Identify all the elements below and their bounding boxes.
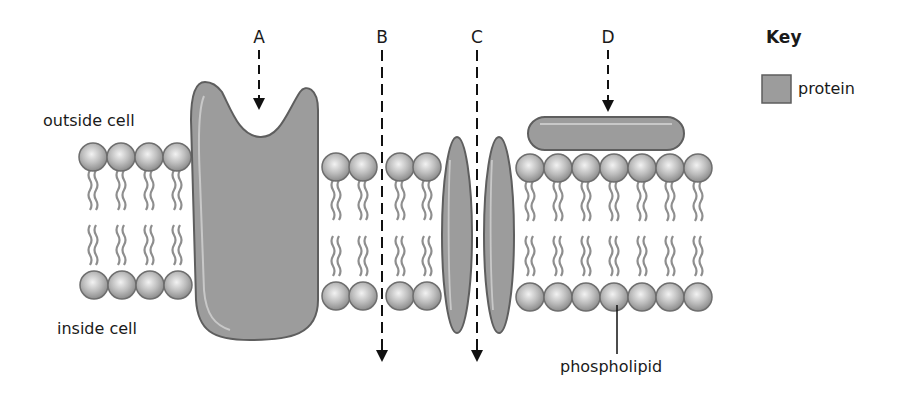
phospholipid-group-left xyxy=(79,143,192,299)
key-title: Key xyxy=(766,27,802,47)
phospholipid-label: phospholipid xyxy=(560,357,662,376)
protein-d xyxy=(528,117,684,150)
arrow-a xyxy=(253,50,265,110)
arrow-d xyxy=(602,50,614,112)
protein-channel-right xyxy=(484,137,514,333)
label-a: A xyxy=(253,27,265,47)
outside-cell-label: outside cell xyxy=(43,111,135,130)
label-b: B xyxy=(376,27,388,47)
protein-channel-left xyxy=(442,137,472,333)
label-d: D xyxy=(601,27,614,47)
protein-a xyxy=(191,82,318,340)
arrow-b xyxy=(376,50,388,362)
phospholipid-group-right xyxy=(516,154,712,311)
key-protein-swatch xyxy=(762,75,791,103)
arrow-c xyxy=(471,50,483,362)
membrane-diagram: A B C D outside cell inside cell phospho… xyxy=(0,0,900,398)
label-c: C xyxy=(471,27,483,47)
inside-cell-label: inside cell xyxy=(57,319,137,338)
key-protein-label: protein xyxy=(798,79,855,98)
